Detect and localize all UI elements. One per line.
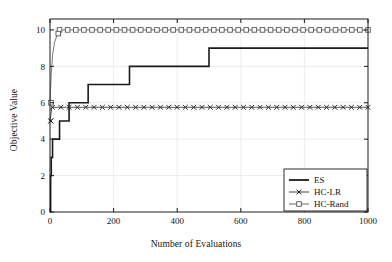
data-marker-square [297,202,302,207]
y-tick-label: 10 [36,25,46,35]
data-marker-square [82,28,87,33]
line-chart-canvas: 02004006008001000 0246810 ESHC-LRHC-Rand [0,0,392,262]
data-marker-square [228,28,233,33]
data-marker-square [268,28,273,33]
data-marker-square [147,28,152,33]
data-marker-square [349,28,354,33]
y-tick-label: 2 [41,171,46,181]
data-marker-square [220,28,225,33]
legend-label: HC-LR [314,187,341,197]
data-marker-square [130,28,135,33]
data-marker-square [195,28,200,33]
legend-label: HC-Rand [314,199,349,209]
data-marker-square [187,28,192,33]
y-tick-label: 0 [41,207,46,217]
data-marker-square [90,28,95,33]
data-marker-square [155,28,160,33]
data-marker-square [73,28,78,33]
data-marker-square [211,28,216,33]
data-marker-square [244,28,249,33]
data-marker-square [309,28,314,33]
data-marker-square [179,28,184,33]
chart-figure: 02004006008001000 0246810 ESHC-LRHC-Rand… [0,0,392,262]
data-marker-square [333,28,338,33]
data-marker-square [98,28,103,33]
y-axis-title: Objective Value [9,60,19,180]
x-tick-label: 800 [298,216,312,226]
y-tick-label: 4 [41,134,46,144]
y-tick-label: 6 [41,98,46,108]
x-axis-title: Number of Evaluations [0,239,392,249]
data-marker-square [171,28,176,33]
data-marker-square [276,28,281,33]
data-marker-square [163,28,168,33]
data-marker-square [325,28,330,33]
x-tick-label: 400 [170,216,184,226]
data-marker-square [285,28,290,33]
data-marker-square [260,28,265,33]
data-marker-square [293,28,298,33]
data-marker-square [236,28,241,33]
data-marker-square [106,28,111,33]
x-tick-label: 200 [107,216,121,226]
y-tick-label: 8 [41,62,46,72]
data-marker-square [252,28,257,33]
x-tick-label: 600 [234,216,248,226]
data-marker-square [317,28,322,33]
data-marker-square [203,28,208,33]
x-tick-label: 0 [48,216,53,226]
data-marker-square [358,28,363,33]
data-marker-square [56,31,61,36]
chart-legend: ESHC-LRHC-Rand [284,169,367,211]
data-marker-square [65,28,70,33]
data-marker-square [114,28,119,33]
legend-label: ES [314,175,325,185]
data-marker-square [138,28,143,33]
data-marker-square [301,28,306,33]
data-marker-square [122,28,127,33]
x-tick-label: 1000 [359,216,378,226]
data-marker-square [341,28,346,33]
